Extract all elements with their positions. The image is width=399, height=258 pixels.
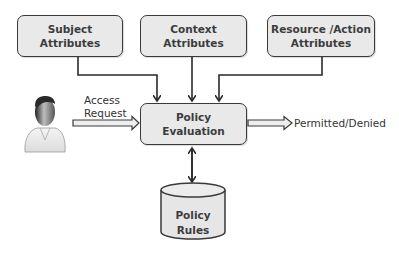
context-attributes-line2: Attributes	[163, 36, 223, 50]
resource-attributes-line2: Attributes	[291, 36, 351, 50]
policy-evaluation-line1: Policy	[176, 110, 211, 124]
resource-attributes-line1: Resource /Action	[271, 22, 371, 36]
output-arrow	[248, 117, 292, 130]
resource-to-evaluation-arrow	[219, 57, 322, 101]
context-attributes-box: Context Attributes	[140, 15, 247, 57]
subject-attributes-line2: Attributes	[40, 36, 100, 50]
policy-evaluation-box: Policy Evaluation	[140, 103, 247, 145]
access-request-label: Access Request	[84, 94, 127, 120]
policy-evaluation-line2: Evaluation	[162, 124, 225, 138]
resource-action-attributes-box: Resource /Action Attributes	[267, 15, 375, 57]
permitted-denied-label: Permitted/Denied	[294, 117, 386, 130]
policy-rules-line2: Rules	[161, 223, 225, 238]
access-request-line1: Access	[84, 94, 127, 107]
access-request-line2: Request	[84, 107, 127, 120]
policy-rules-label: Policy Rules	[161, 208, 225, 238]
policy-rules-line1: Policy	[161, 208, 225, 223]
context-attributes-line1: Context	[170, 22, 216, 36]
subject-attributes-line1: Subject	[48, 22, 93, 36]
subject-attributes-box: Subject Attributes	[17, 15, 123, 57]
person-icon	[25, 96, 65, 152]
